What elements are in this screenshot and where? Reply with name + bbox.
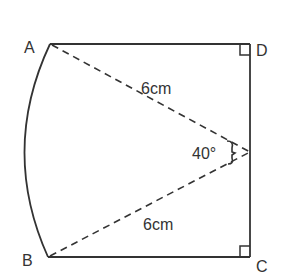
right-angle-D bbox=[240, 44, 250, 55]
radius-label-bottom: 6cm bbox=[143, 216, 173, 233]
geometry-diagram: A B C D 6cm 6cm 40° bbox=[0, 0, 287, 275]
radius-OB bbox=[50, 152, 250, 256]
point-label-B: B bbox=[22, 252, 33, 269]
arc-AB bbox=[24, 44, 50, 257]
right-angle-C bbox=[240, 246, 250, 257]
radius-label-top: 6cm bbox=[141, 80, 171, 97]
point-label-D: D bbox=[256, 42, 268, 59]
point-label-C: C bbox=[256, 258, 268, 275]
angle-label: 40° bbox=[192, 145, 216, 162]
point-label-A: A bbox=[24, 39, 35, 56]
radius-OA bbox=[52, 45, 250, 152]
